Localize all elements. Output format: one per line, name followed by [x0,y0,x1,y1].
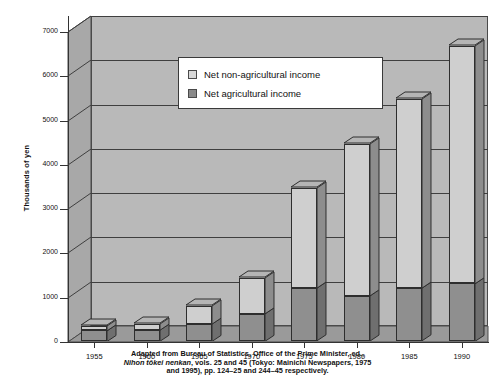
bar-segment-non-agricultural [239,278,265,314]
bar-segment-agricultural [186,324,212,341]
gridline-depth-connector [68,193,91,211]
bar-top-face [344,136,381,145]
bar-top-face [186,298,223,307]
y-axis-tick-label: 0 [54,337,58,344]
bar-segment-agricultural [134,330,160,341]
bar-side-faces [422,81,433,341]
bar-side-agricultural [370,290,379,341]
bar-segment-agricultural [239,314,265,341]
y-axis-tick-label: 4000 [42,160,58,167]
y-axis-tick-mark [60,209,68,210]
y-axis-title-text: Thousands of yen [22,118,31,238]
bar-segment-non-agricultural [449,46,475,284]
legend-item-agricultural: Net agricultural income [188,84,373,103]
y-axis-tick-label: 2000 [42,248,58,255]
y-axis-tick-mark [60,76,68,77]
x-axis-tick-mark [199,342,200,348]
bar-column [344,144,370,341]
x-axis-tick-mark [252,342,253,348]
bar-side-faces [370,126,381,341]
bar-segment-agricultural [449,283,475,341]
bar-column [291,188,317,341]
bar-column [134,324,160,341]
y-axis-tick-mark [60,253,68,254]
legend-label-agricultural: Net agricultural income [204,88,301,99]
bar-side-agricultural [475,277,484,341]
figure-caption: Adapted from Bureau of Statistics, Offic… [0,350,495,376]
y-axis-tick-label: 5000 [42,116,58,123]
bar-side-non-agricultural [370,138,379,296]
y-axis-tick-mark [60,342,68,343]
bar-column [186,306,212,341]
x-axis-tick-mark [462,342,463,348]
plot-area: 01000200030004000500060007000 1955196019… [68,16,488,341]
y-axis-tick-mark [60,298,68,299]
y-axis-tick-label: 6000 [42,71,58,78]
bar-segment-agricultural [81,330,107,341]
legend-item-non-agricultural: Net non-agricultural income [188,65,373,84]
gridline-depth-connector [68,237,91,255]
bar-side-non-agricultural [317,182,326,288]
bar-column [239,278,265,341]
gridline-depth-connector [68,105,91,123]
bar-side-agricultural [317,282,326,341]
bar-side-non-agricultural [475,40,484,284]
bar-top-face [396,91,433,100]
bar-segment-agricultural [396,288,422,341]
x-axis-tick-mark [94,342,95,348]
bar-side-faces [317,170,328,341]
bar-side-agricultural [422,282,431,341]
x-axis-tick-mark [147,342,148,348]
x-axis-tick-mark [357,342,358,348]
bar-top-face [291,180,328,189]
y-axis-tick-mark [60,121,68,122]
bar-column [396,99,422,341]
bar-segment-agricultural [344,296,370,341]
gridline-depth-connector [68,282,91,300]
gridline-depth-connector [68,16,91,34]
caption-line-3: and 1995), pp. 124–25 and 244–45 respect… [0,367,495,376]
bar-side-non-agricultural [422,93,431,288]
bar-segment-non-agricultural [291,188,317,288]
legend-swatch-dark-icon [188,89,197,98]
x-axis-line [68,342,489,343]
bar-side-faces [212,288,223,341]
y-axis-tick-label: 7000 [42,27,58,34]
figure-stacked-bar-chart: Thousands of yen 01000200030004000500060… [0,0,495,381]
bar-segment-non-agricultural [186,306,212,324]
bar-segment-non-agricultural [396,99,422,288]
bar-segment-non-agricultural [344,144,370,296]
gridline [91,16,488,17]
legend-swatch-light-icon [188,70,197,79]
y-axis-tick-mark [60,32,68,33]
y-axis-tick-label: 1000 [42,293,58,300]
gridline-depth-connector [68,149,91,167]
bar-column [81,326,107,342]
bar-top-face [449,38,486,47]
legend-label-non-agricultural: Net non-agricultural income [204,69,320,80]
bar-segment-agricultural [291,288,317,341]
bar-top-face [239,270,276,279]
chart-legend: Net non-agricultural income Net agricult… [178,57,383,109]
y-axis-tick-mark [60,165,68,166]
y-axis-title: Thousands of yen [22,0,36,118]
x-axis-tick-mark [409,342,410,348]
bar-side-faces [475,28,486,341]
bar-column [449,46,475,341]
y-axis-tick-label: 3000 [42,204,58,211]
bar-top-face [134,316,171,325]
x-axis-tick-mark [304,342,305,348]
bar-top-face [81,318,118,327]
gridline-depth-connector [68,60,91,78]
